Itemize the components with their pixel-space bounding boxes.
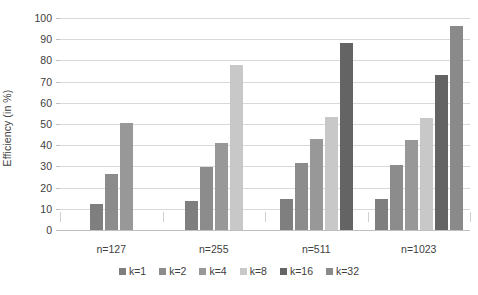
bar-group	[368, 18, 471, 230]
bar-chart: Efficiency (in %) 1009080706050403020100…	[0, 0, 478, 295]
bar-group	[60, 18, 163, 230]
category-separator	[470, 212, 471, 222]
bar	[375, 199, 388, 230]
legend-label: k=1	[129, 266, 146, 277]
y-axis-tick-label: 40	[6, 140, 52, 151]
y-axis-tick-label: 80	[6, 55, 52, 66]
legend-swatch-icon	[326, 268, 333, 275]
y-axis-tick-label: 90	[6, 34, 52, 45]
y-axis-tick-label: 10	[6, 204, 52, 215]
legend-swatch-icon	[159, 268, 166, 275]
gridline	[60, 230, 470, 231]
category-separator	[265, 212, 266, 222]
legend-label: k=32	[336, 266, 359, 277]
bar	[185, 201, 198, 230]
bar	[280, 199, 293, 230]
x-axis-label-n255: n=255	[163, 243, 266, 255]
bar	[105, 174, 118, 230]
legend-item-k1[interactable]: k=1	[119, 266, 146, 277]
y-axis-tick-label: 60	[6, 98, 52, 109]
y-axis-tick-label: 100	[6, 13, 52, 24]
legend-label: k=16	[290, 266, 313, 277]
bar	[405, 140, 418, 230]
bar	[310, 139, 323, 230]
bar	[120, 123, 133, 230]
legend-swatch-icon	[240, 268, 247, 275]
bar	[325, 117, 338, 230]
legend-item-k4[interactable]: k=4	[199, 266, 226, 277]
category-separator	[163, 212, 164, 222]
legend-label: k=4	[209, 266, 226, 277]
category-separator	[60, 212, 61, 222]
bar	[90, 204, 103, 231]
bar	[435, 75, 448, 230]
legend-swatch-icon	[280, 268, 287, 275]
bar	[420, 118, 433, 230]
y-axis-tick-label: 50	[6, 119, 52, 130]
x-axis-label-n1023: n=1023	[368, 243, 471, 255]
y-axis-tick-label: 20	[6, 183, 52, 194]
legend-label: k=2	[169, 266, 186, 277]
plot-area	[60, 18, 470, 230]
bar-group	[163, 18, 266, 230]
category-separator	[368, 212, 369, 222]
legend-item-k16[interactable]: k=16	[280, 266, 313, 277]
legend: k=1k=2k=4k=8k=16k=32	[0, 266, 478, 277]
legend-item-k2[interactable]: k=2	[159, 266, 186, 277]
bar	[215, 143, 228, 230]
bar	[390, 165, 403, 230]
bar	[295, 163, 308, 230]
bar	[340, 43, 353, 230]
x-axis-label-n127: n=127	[60, 243, 163, 255]
bar	[200, 167, 213, 230]
bar-group	[265, 18, 368, 230]
y-axis-tick-label: 70	[6, 77, 52, 88]
legend-item-k32[interactable]: k=32	[326, 266, 359, 277]
bar	[450, 26, 463, 230]
y-axis-tick-label: 30	[6, 161, 52, 172]
legend-swatch-icon	[199, 268, 206, 275]
legend-swatch-icon	[119, 268, 126, 275]
y-axis-tick-label: 0	[6, 225, 52, 236]
bar	[230, 65, 243, 230]
legend-label: k=8	[250, 266, 267, 277]
legend-item-k8[interactable]: k=8	[240, 266, 267, 277]
x-axis-label-n511: n=511	[265, 243, 368, 255]
